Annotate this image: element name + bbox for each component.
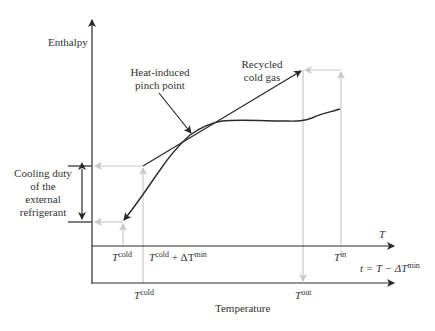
pinch-label: Heat-induced pinch point	[125, 66, 195, 92]
tick-T-out: Tout	[295, 289, 311, 302]
pinch-label-line2: pinch point	[125, 79, 195, 92]
pinch-pointer	[159, 93, 191, 133]
tick-T-cold-lower: Tcold	[134, 289, 154, 302]
tick-T-cold-upper: Tcold	[112, 251, 132, 264]
x-axis-label: Temperature	[215, 302, 270, 315]
diagram-canvas	[0, 0, 435, 331]
cooling-label-line1: Cooling duty	[10, 167, 76, 180]
recycled-label: Recycled cold gas	[232, 58, 292, 84]
pinch-label-line1: Heat-induced	[125, 66, 195, 79]
cooling-label-line2: of the	[10, 180, 76, 193]
tick-T-cold-plus-dTmin: Tcold + ΔTmin	[149, 251, 207, 264]
upper-axis-name: T	[379, 228, 385, 241]
cooling-duty-label: Cooling duty of the external refrigerant	[10, 167, 76, 219]
lower-axis-name: t = T − ΔTmin	[360, 262, 420, 275]
cooling-label-line3: external	[10, 193, 76, 206]
recycled-label-line1: Recycled	[232, 58, 292, 71]
cooling-label-line4: refrigerant	[10, 206, 76, 219]
recycled-label-line2: cold gas	[232, 71, 292, 84]
hot-stream-curve	[124, 109, 340, 220]
tick-T-in: Tin	[334, 251, 346, 264]
y-axis-label: Enthalpy	[48, 36, 88, 49]
